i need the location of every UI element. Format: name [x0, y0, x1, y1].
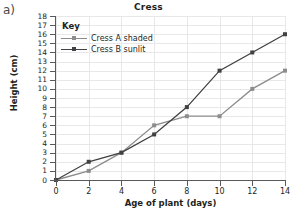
y-axis-tick: [50, 80, 55, 81]
legend-swatch: [61, 34, 87, 43]
y-axis-tick-label: 8: [29, 103, 47, 112]
x-axis-tick-label: 10: [210, 187, 230, 196]
x-axis-tick-label: 12: [242, 187, 262, 196]
y-axis-tick: [50, 144, 55, 145]
data-point-marker: [250, 50, 254, 54]
y-axis-tick-label: 1: [29, 166, 47, 175]
y-axis-tick: [50, 16, 55, 17]
y-axis-tick-label: 5: [29, 130, 47, 139]
data-point-marker: [119, 151, 123, 155]
y-axis-tick: [50, 134, 55, 135]
data-point-marker: [283, 32, 287, 36]
data-point-marker: [185, 114, 189, 118]
data-point-marker: [218, 114, 222, 118]
y-axis-tick-label: 2: [29, 157, 47, 166]
legend-swatch: [61, 45, 87, 54]
x-axis-tick-label: 6: [144, 187, 164, 196]
legend-marker: [72, 36, 76, 40]
y-axis-tick-label: 3: [29, 148, 47, 157]
y-axis-tick-label: 16: [29, 30, 47, 39]
legend-marker: [72, 47, 76, 51]
data-point-marker: [218, 69, 222, 73]
x-axis-tick-label: 2: [79, 187, 99, 196]
y-axis-tick-label: 11: [29, 75, 47, 84]
x-axis-tick: [220, 181, 221, 186]
x-axis-title: Age of plant (days): [56, 198, 285, 208]
data-point-marker: [152, 123, 156, 127]
y-axis-tick: [50, 162, 55, 163]
y-axis-tick: [50, 98, 55, 99]
y-axis-tick-label: 18: [29, 12, 47, 21]
legend-entries: Cress A shadedCress B sunlit: [61, 33, 153, 55]
series-line: [56, 34, 285, 180]
data-point-marker: [250, 87, 254, 91]
legend-item-2[interactable]: Cress B sunlit: [61, 44, 153, 55]
y-axis-tick-label: 13: [29, 57, 47, 66]
x-axis-tick: [121, 181, 122, 186]
y-axis-tick: [50, 43, 55, 44]
y-axis-tick: [50, 116, 55, 117]
x-axis-tick-label: 14: [275, 187, 295, 196]
y-axis-tick-label: 6: [29, 121, 47, 130]
y-axis-tick: [50, 52, 55, 53]
data-point-marker: [87, 169, 91, 173]
y-axis-tick-label: 17: [29, 21, 47, 30]
y-axis-tick: [50, 62, 55, 63]
x-axis-tick-label: 0: [46, 187, 66, 196]
data-point-marker: [283, 69, 287, 73]
chart-legend: Key Cress A shadedCress B sunlit: [61, 21, 153, 55]
x-axis-tick: [154, 181, 155, 186]
y-axis-tick: [50, 34, 55, 35]
y-axis-tick-label: 9: [29, 94, 47, 103]
x-axis-tick: [285, 181, 286, 186]
series-1: [54, 69, 287, 182]
data-point-marker: [185, 105, 189, 109]
x-axis-tick-label: 4: [111, 187, 131, 196]
y-axis-tick: [50, 107, 55, 108]
y-axis-tick-label: 12: [29, 66, 47, 75]
gridline-vertical: [285, 16, 286, 180]
y-axis-tick-label: 7: [29, 112, 47, 121]
y-axis-tick: [50, 25, 55, 26]
x-axis-tick: [187, 181, 188, 186]
y-axis-tick: [50, 125, 55, 126]
legend-label: Cress B sunlit: [91, 45, 145, 54]
y-axis-title: Height (cm): [9, 45, 19, 121]
data-point-marker: [87, 160, 91, 164]
y-axis-tick-label: 14: [29, 48, 47, 57]
y-axis-tick: [50, 180, 55, 181]
y-axis-tick-label: 4: [29, 139, 47, 148]
y-axis-tick: [50, 153, 55, 154]
legend-title: Key: [62, 21, 153, 31]
data-point-marker: [152, 132, 156, 136]
y-axis-line: [55, 16, 56, 181]
legend-item-1[interactable]: Cress A shaded: [61, 33, 153, 44]
y-axis-tick-label: 0: [29, 176, 47, 185]
y-axis-tick: [50, 89, 55, 90]
y-axis-tick: [50, 71, 55, 72]
y-axis-tick: [50, 171, 55, 172]
legend-label: Cress A shaded: [91, 34, 153, 43]
x-axis-tick: [89, 181, 90, 186]
x-axis-tick-label: 8: [177, 187, 197, 196]
y-axis-tick-label: 15: [29, 39, 47, 48]
x-axis-tick: [252, 181, 253, 186]
x-axis-tick: [56, 181, 57, 186]
y-axis-tick-label: 10: [29, 84, 47, 93]
chart-title: Cress: [0, 2, 297, 12]
